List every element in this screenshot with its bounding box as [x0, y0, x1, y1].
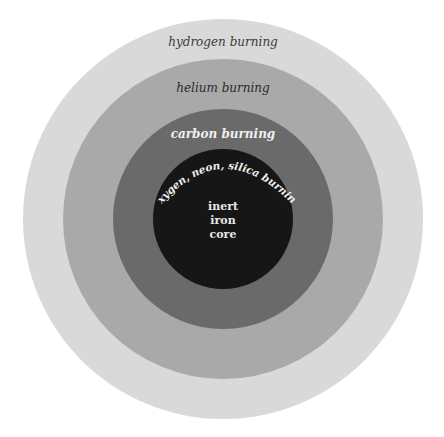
- core-label-inert: inert: [193, 200, 253, 213]
- core-label-core: core: [193, 228, 253, 241]
- core-label-iron: iron: [193, 214, 253, 227]
- oxygen-neon-silica-label: oxygen, neon, silica burning: [0, 0, 299, 206]
